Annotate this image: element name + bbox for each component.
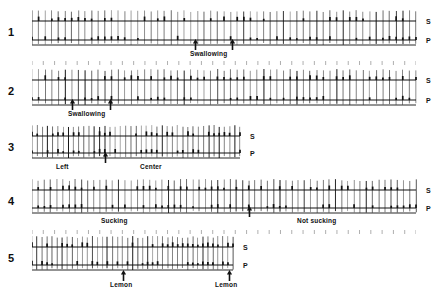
channel-label-s-trace-4: S xyxy=(426,187,431,194)
trace-number-3: 3 xyxy=(8,142,14,153)
event-label-sucking-trace-4: Sucking xyxy=(101,218,128,225)
timing-row-trace-1 xyxy=(32,60,416,66)
event-arrow-up-icon-trace-5-0-0 xyxy=(120,270,127,281)
channel-label-s-trace-3: S xyxy=(250,133,255,140)
event-label-left-trace-3: Left xyxy=(56,164,69,171)
channel-label-p-trace-3: P xyxy=(250,150,255,157)
trace-number-4: 4 xyxy=(8,196,14,207)
event-arrow-up-icon-trace-2-0-0 xyxy=(69,99,76,110)
channel-label-s-trace-2: S xyxy=(426,77,431,84)
trace-number-5: 5 xyxy=(8,253,14,264)
event-arrow-up-icon-trace-5-1-0 xyxy=(226,270,233,281)
trace-strip-4 xyxy=(32,178,424,218)
event-arrow-up-icon-trace-3-1-0 xyxy=(102,152,109,163)
event-label-swallowing-trace-2: Swallowing xyxy=(68,111,105,118)
event-label-not-sucking-trace-4: Not sucking xyxy=(297,218,336,225)
event-arrow-up-icon-trace-1-0-1 xyxy=(229,39,236,50)
trace-strip-3 xyxy=(32,124,248,163)
trace-strip-5 xyxy=(32,235,241,275)
channel-label-s-trace-1: S xyxy=(426,18,431,25)
event-arrow-up-icon-trace-1-0-0 xyxy=(192,39,199,50)
event-arrow-up-icon-trace-4-1-0 xyxy=(246,206,253,217)
trace-strip-2 xyxy=(32,68,424,110)
event-label-lemon-trace-5: Lemon xyxy=(110,282,132,289)
channel-label-p-trace-1: P xyxy=(426,37,431,44)
trace-number-2: 2 xyxy=(8,86,14,97)
channel-label-s-trace-5: S xyxy=(243,244,248,251)
channel-label-p-trace-5: P xyxy=(243,262,248,269)
polygraph-figure: 1SPSwallowing2SPSwallowing3SPLeftCenter4… xyxy=(0,0,432,292)
event-label-swallowing-trace-1: Swallowing xyxy=(190,51,227,58)
event-arrow-up-icon-trace-2-0-1 xyxy=(107,99,114,110)
trace-number-1: 1 xyxy=(8,27,14,38)
channel-label-p-trace-4: P xyxy=(426,205,431,212)
event-label-center-trace-3: Center xyxy=(140,164,162,171)
event-label-lemon-trace-5: Lemon xyxy=(215,282,237,289)
channel-label-p-trace-2: P xyxy=(426,97,431,104)
